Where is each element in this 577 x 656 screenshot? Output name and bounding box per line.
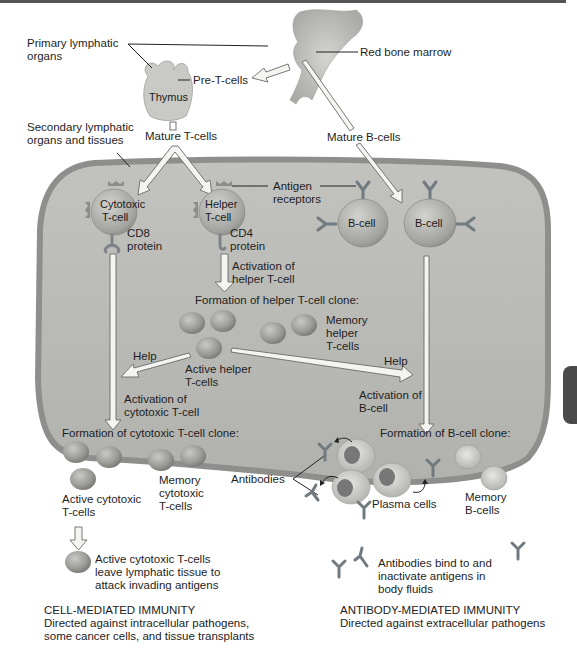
memory-cytotoxic-label: Memory cytotoxic T-cells [159, 474, 207, 512]
helper-clone-title: Formation of helper T-cell clone: [195, 294, 359, 306]
pre-t-cells-label: Pre-T-cells [193, 74, 248, 86]
helper-activation-label: Activation of helper T-cell [232, 260, 298, 285]
active-cytotoxic-label: Active cytotoxic T-cells [62, 493, 144, 518]
antibody-mediated-caption: ANTIBODY-MEDIATED IMMUNITY Directed agai… [340, 604, 545, 629]
b-cell-2-label: B-cell [415, 217, 443, 229]
primary-lymphatic-label: Primary lymphatic organs [27, 37, 122, 62]
antigen-receptors-label: Antigen receptors [273, 180, 321, 205]
antibodies-bind-label: Antibodies bind to and inactivate antige… [378, 557, 495, 595]
thymus-icon: Thymus [144, 61, 193, 120]
b-cell-1-label: B-cell [348, 217, 376, 229]
help-left-label: Help [133, 350, 157, 362]
b-clone-title: Formation of B-cell clone: [380, 427, 510, 439]
cytotoxic-clone-title: Formation of cytotoxic T-cell clone: [62, 427, 239, 439]
cytotoxic-leave-label: Active cytotoxic T-cells leave lymphatic… [95, 553, 224, 591]
mature-t-cells-label: Mature T-cells [145, 130, 217, 142]
mature-b-cells-label: Mature B-cells [327, 131, 401, 143]
memory-b-cells-label: Memory B-cells [465, 491, 510, 516]
thymus-outlet-marker [170, 122, 176, 130]
thymus-label: Thymus [149, 91, 189, 103]
arrow-cytotoxic-leave [70, 527, 87, 550]
help-right-label: Help [384, 355, 408, 367]
cytotoxic-activation-label: Activation of cytotoxic T-cell [124, 393, 199, 418]
primary-leader-line-1 [128, 44, 268, 46]
primary-leader-line-2 [128, 44, 152, 68]
antibodies-label: Antibodies [231, 473, 285, 485]
arrow-pre-t-cells [252, 64, 290, 82]
plasma-cells-label: Plasma cells [372, 498, 437, 510]
red-bone-marrow-label: Red bone marrow [360, 46, 452, 58]
leaving-cytotoxic-cell [65, 551, 91, 573]
secondary-lymphatic-label: Secondary lymphatic organs and tissues [27, 121, 137, 146]
cell-mediated-caption: CELL-MEDIATED IMMUNITY Directed against … [44, 604, 255, 642]
